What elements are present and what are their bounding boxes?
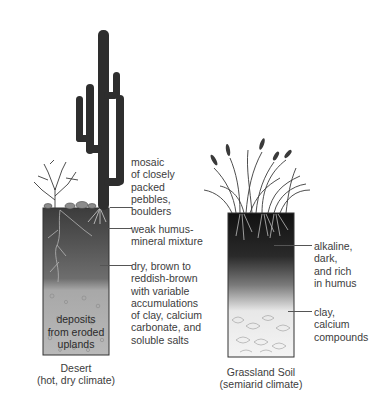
desert-caption-sub: (hot, dry climate) <box>26 374 126 387</box>
leader-line-grass-topsoil <box>274 245 312 246</box>
grass-seedheads <box>209 138 292 167</box>
grassland-subsoil-label: clay, calcium compounds <box>314 306 368 343</box>
desert-subsoil-label: dry, brown to reddish-brown with variabl… <box>131 260 202 346</box>
saguaro-cactus-icon <box>76 30 124 210</box>
grassland-caption-sub: (semiarid climate) <box>211 378 311 391</box>
leader-line-topsoil <box>108 228 132 229</box>
grassland-soil-column <box>228 213 294 357</box>
desert-topsoil-label: weak humus- mineral mixture <box>131 223 203 248</box>
desert-bottom-label: deposits from eroded uplands <box>43 313 109 351</box>
grass-tuft-icon <box>204 150 310 213</box>
desert-surface-label: mosaic of closely packed pebbles, boulde… <box>131 156 175 217</box>
leader-line-surface <box>110 207 132 208</box>
leader-line-subsoil <box>100 265 132 266</box>
grassland-caption-title: Grassland Soil <box>211 366 311 379</box>
grassland-topsoil-label: alkaline, dark, and rich in humus <box>314 240 357 289</box>
desert-shrub-icon <box>34 160 78 208</box>
leader-line-grass-subsoil <box>288 311 312 312</box>
desert-caption-title: Desert <box>26 362 126 375</box>
